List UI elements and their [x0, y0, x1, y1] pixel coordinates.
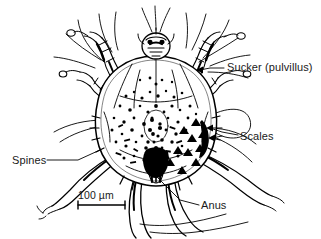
scale-bar-label: 100 µm: [78, 190, 114, 201]
label-sucker-pulvillus: Sucker (pulvillus): [227, 62, 313, 73]
label-scales: Scales: [240, 131, 274, 142]
mite-diagram: [0, 0, 321, 239]
label-anus: Anus: [201, 200, 226, 211]
label-spines: Spines: [12, 155, 46, 166]
